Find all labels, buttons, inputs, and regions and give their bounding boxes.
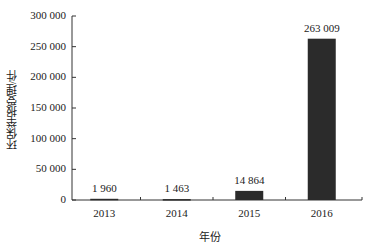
bar-2015 (235, 191, 263, 200)
x-tick-label: 2013 (79, 207, 129, 219)
bar-2013 (90, 199, 118, 201)
y-tick-label: 200 000 (30, 71, 66, 82)
y-tick-label: 300 000 (30, 10, 66, 21)
bar-value-label: 14 864 (219, 174, 279, 186)
x-tick-label: 2015 (224, 207, 274, 219)
y-axis-label: 环保举报受理/件 (6, 70, 20, 150)
x-axis-label: 年份 (199, 228, 221, 244)
bar-2014 (163, 199, 191, 201)
bar-2016 (308, 39, 336, 200)
bar-chart: 050 000100 000150 000200 000250 000300 0… (0, 0, 369, 251)
bar-value-label: 263 009 (292, 22, 352, 34)
x-tick-label: 2014 (152, 207, 202, 219)
y-tick-label: 50 000 (36, 163, 66, 174)
y-tick-label: 250 000 (30, 41, 66, 52)
bar-value-label: 1 960 (74, 182, 134, 194)
y-tick-label: 150 000 (30, 102, 66, 113)
bar-value-label: 1 463 (147, 182, 207, 194)
y-tick-label: 100 000 (30, 133, 66, 144)
y-tick-label: 0 (61, 194, 67, 205)
x-tick-label: 2016 (297, 207, 347, 219)
